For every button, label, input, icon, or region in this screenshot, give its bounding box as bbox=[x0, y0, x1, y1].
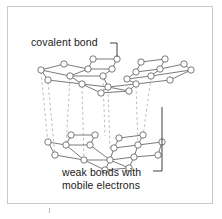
atom bbox=[85, 66, 91, 72]
atom bbox=[87, 142, 93, 148]
atom bbox=[63, 142, 69, 148]
weak-bonds-label-line1: weak bonds with bbox=[62, 166, 141, 179]
atom bbox=[61, 61, 67, 67]
weak-bonds-label-line2: mobile electrons bbox=[62, 179, 141, 192]
atom bbox=[157, 66, 163, 72]
atom bbox=[67, 73, 73, 79]
atom bbox=[90, 56, 96, 62]
atom bbox=[126, 88, 132, 94]
atom bbox=[45, 139, 51, 145]
weak-bonds-label: weak bonds with mobile electrons bbox=[62, 166, 141, 191]
atom bbox=[98, 90, 104, 96]
atom bbox=[45, 77, 51, 83]
atom bbox=[68, 132, 74, 138]
atom bbox=[181, 61, 187, 67]
covalent-bond-label: covalent bond bbox=[31, 36, 98, 49]
atom bbox=[148, 73, 154, 79]
atom bbox=[116, 135, 122, 141]
covalent-bond-leader-line bbox=[110, 43, 117, 57]
atom bbox=[135, 142, 141, 148]
atom bbox=[105, 84, 111, 90]
atom bbox=[162, 56, 168, 62]
atom bbox=[138, 59, 144, 65]
atom bbox=[52, 152, 58, 158]
atom bbox=[124, 76, 130, 82]
atom bbox=[133, 69, 139, 75]
atom bbox=[79, 81, 85, 87]
atom bbox=[100, 73, 106, 79]
atom bbox=[109, 66, 115, 72]
atom bbox=[81, 157, 87, 163]
atom bbox=[92, 132, 98, 138]
atom bbox=[167, 77, 173, 83]
atom bbox=[107, 157, 113, 163]
atom bbox=[140, 132, 146, 138]
atom bbox=[155, 152, 161, 158]
atom bbox=[131, 154, 137, 160]
bottom-layer-bonds bbox=[48, 135, 162, 170]
atom bbox=[133, 81, 139, 87]
atom bbox=[38, 67, 44, 73]
atom bbox=[188, 67, 194, 73]
graphite-structure-figure: covalent bond weak bonds with mobile ele… bbox=[0, 0, 222, 219]
top-layer-atoms bbox=[38, 56, 194, 96]
atom bbox=[111, 145, 117, 151]
